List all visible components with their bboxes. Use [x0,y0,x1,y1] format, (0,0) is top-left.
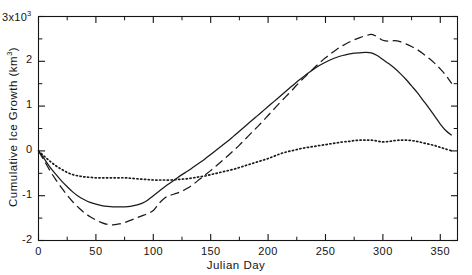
series-dashed-curve [39,34,452,224]
x-tick-label-0: 0 [9,245,69,257]
x-tick-label-300: 300 [353,245,413,257]
plot-frame [39,17,458,241]
x-tick-label-200: 200 [238,245,298,257]
y-exponent-superscript: 3 [27,9,31,18]
series-solid-curve [39,52,452,207]
y-tick-label-2: 2 [0,53,33,65]
axis-ticks [39,17,458,241]
x-tick-label-250: 250 [295,245,355,257]
y-tick-label--2: -2 [0,233,33,245]
chart-plot-area [0,0,472,275]
y-exponent-mantissa: 3x10 [2,10,27,22]
y-tick-label-0: 0 [0,143,33,155]
x-tick-label-150: 150 [181,245,241,257]
x-axis-title: Julian Day [0,259,472,271]
y-axis-title-text: Cumulative Ice Growth (km [7,55,19,206]
y-axis-title-close: ) [7,46,19,50]
chart-figure: 3x103 Cumulative Ice Growth (km3) Julian… [0,0,472,275]
y-tick-label--1: -1 [0,188,33,200]
x-axis-title-text: Julian Day [207,259,266,271]
axes-frame [39,17,458,241]
x-tick-label-50: 50 [66,245,126,257]
x-tick-label-100: 100 [123,245,183,257]
series-dotted-curve [39,140,452,180]
y-axis-exponent-label: 3x103 [2,9,32,23]
x-tick-label-350: 350 [410,245,470,257]
data-series-group [39,34,452,224]
y-tick-label-1: 1 [0,98,33,110]
